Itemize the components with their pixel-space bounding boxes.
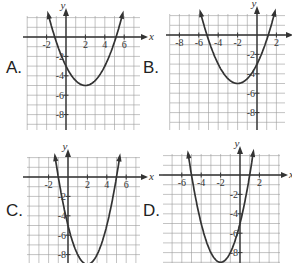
curve-arrow-icon: [250, 149, 255, 158]
graphs-canvas: xy-2246-2-4-6-8xy-8-6-4-22-2-4-6-8xy-224…: [0, 0, 292, 263]
x-tick-label: -4: [214, 37, 222, 48]
x-tick-label: 2: [83, 39, 88, 50]
grid: [170, 14, 285, 130]
x-axis-label: x: [148, 170, 154, 182]
x-tick-label: -6: [195, 37, 203, 48]
x-tick-label: -4: [197, 177, 205, 188]
graph-c: xy-2246-2-4-6-8: [23, 140, 154, 263]
graph-d: xy-6-4-22-2-4-6-8: [159, 137, 292, 263]
y-axis-label: y: [234, 137, 240, 149]
curve-arrow-icon: [53, 153, 58, 162]
x-axis-label: x: [148, 30, 154, 42]
graph-a: xy-2246-2-4-6-8: [23, 0, 154, 130]
y-axis-label: y: [60, 0, 66, 11]
curve-arrow-icon: [271, 8, 276, 17]
x-axis-arrow-icon: [281, 172, 288, 178]
x-tick-label: 2: [85, 179, 90, 190]
x-axis-arrow-icon: [141, 174, 148, 180]
curve-arrow-icon: [199, 9, 204, 18]
grid: [27, 16, 140, 130]
y-tick-label: -8: [247, 107, 255, 118]
y-tick-label: -2: [230, 189, 238, 200]
x-axis-arrow-icon: [286, 32, 292, 38]
x-tick-label: 4: [104, 179, 109, 190]
y-tick-label: -6: [58, 230, 66, 241]
y-tick-label: -6: [247, 88, 255, 99]
x-tick-label: 2: [274, 37, 279, 48]
y-tick-label: -2: [247, 49, 255, 60]
x-tick-label: 6: [124, 179, 129, 190]
graph-b: xy-8-6-4-22-2-4-6-8: [166, 0, 292, 130]
x-tick-label: -2: [216, 177, 224, 188]
curve-arrow-icon: [47, 11, 52, 20]
y-axis-label: y: [251, 0, 257, 9]
x-tick-label: 4: [102, 39, 107, 50]
curve-arrow-icon: [119, 11, 124, 20]
y-tick-label: -4: [56, 70, 64, 81]
x-tick-label: -2: [233, 37, 241, 48]
y-tick-label: -6: [56, 90, 64, 101]
x-tick-label: 6: [122, 39, 127, 50]
y-tick-label: -4: [230, 208, 238, 219]
x-tick-label: -2: [44, 179, 52, 190]
grid: [163, 154, 280, 263]
x-tick-label: 2: [257, 177, 262, 188]
y-tick-label: -8: [58, 249, 66, 260]
y-axis-label: y: [62, 140, 68, 152]
x-tick-label: -2: [42, 39, 50, 50]
x-axis-label: x: [288, 168, 292, 180]
y-tick-label: -8: [56, 109, 64, 120]
x-tick-label: -8: [175, 37, 183, 48]
x-axis-arrow-icon: [141, 34, 148, 40]
x-tick-label: -6: [178, 177, 186, 188]
grid: [27, 157, 140, 263]
curve-arrow-icon: [186, 150, 191, 159]
